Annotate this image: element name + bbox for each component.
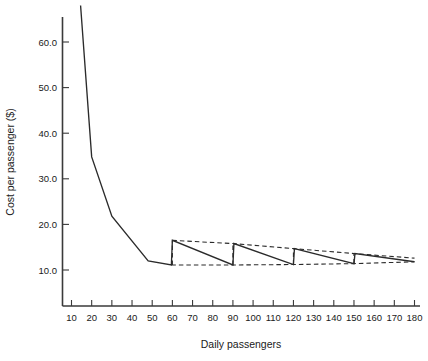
y-tick-label: 40.0 bbox=[39, 128, 58, 139]
x-tick-label: 60 bbox=[167, 312, 178, 323]
x-tick-label: 180 bbox=[407, 312, 423, 323]
x-tick-label: 70 bbox=[187, 312, 198, 323]
y-axis-title: Cost per passenger ($) bbox=[4, 108, 16, 215]
y-tick-label: 30.0 bbox=[39, 173, 58, 184]
y-axis-ticks: 10.020.030.040.050.060.0 bbox=[39, 37, 70, 276]
x-tick-label: 130 bbox=[306, 312, 322, 323]
y-tick-label: 20.0 bbox=[39, 219, 58, 230]
x-tick-label: 140 bbox=[326, 312, 342, 323]
x-axis-ticks: 1020304050607080901001101201301401501601… bbox=[66, 300, 422, 323]
axis-spines bbox=[63, 17, 421, 306]
x-tick-label: 170 bbox=[386, 312, 402, 323]
y-tick-label: 10.0 bbox=[39, 265, 58, 276]
x-tick-label: 50 bbox=[147, 312, 158, 323]
series-path bbox=[81, 6, 415, 265]
y-tick-label: 50.0 bbox=[39, 82, 58, 93]
chart-canvas: 10.020.030.040.050.060.0 102030405060708… bbox=[0, 0, 428, 361]
x-tick-label: 120 bbox=[286, 312, 302, 323]
x-tick-label: 80 bbox=[207, 312, 218, 323]
x-tick-label: 160 bbox=[366, 312, 382, 323]
x-axis-title: Daily passengers bbox=[201, 338, 282, 350]
x-tick-label: 150 bbox=[346, 312, 362, 323]
y-tick-label: 60.0 bbox=[39, 37, 58, 48]
x-tick-label: 30 bbox=[107, 312, 118, 323]
x-tick-label: 110 bbox=[266, 312, 281, 323]
chart-figure: 10.020.030.040.050.060.0 102030405060708… bbox=[0, 0, 428, 361]
data-series-layer bbox=[81, 6, 415, 265]
x-tick-label: 10 bbox=[66, 312, 77, 323]
x-tick-label: 40 bbox=[127, 312, 138, 323]
x-tick-label: 90 bbox=[228, 312, 239, 323]
x-tick-label: 100 bbox=[245, 312, 261, 323]
x-tick-label: 20 bbox=[86, 312, 97, 323]
